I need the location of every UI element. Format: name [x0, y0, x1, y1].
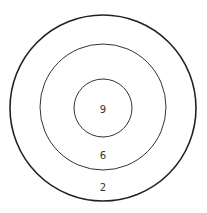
outer-ring-label: 2 [100, 182, 106, 193]
target-diagram: 9 6 2 [0, 0, 207, 213]
inner-ring-label: 9 [100, 104, 106, 115]
middle-ring-label: 6 [100, 150, 106, 161]
